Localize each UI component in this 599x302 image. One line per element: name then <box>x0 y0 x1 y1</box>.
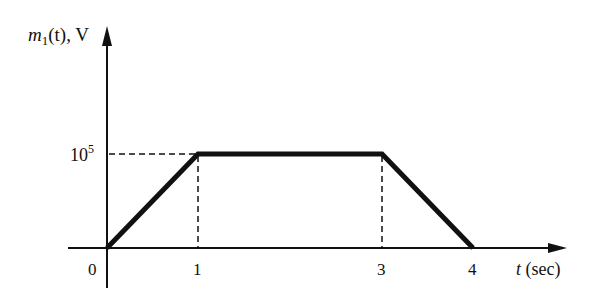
chart-canvas: m1(t), V 105 0 1 3 4 t (sec) <box>0 0 599 302</box>
x-tick-1: 1 <box>193 260 202 279</box>
signal-trapezoid <box>107 154 473 248</box>
y-axis-arrow-icon <box>102 26 112 46</box>
x-tick-0: 0 <box>88 260 97 279</box>
x-tick-3: 3 <box>377 260 386 279</box>
x-axis-label: t (sec) <box>516 259 561 280</box>
y-tick-label: 105 <box>70 142 94 165</box>
y-axis-label: m1(t), V <box>28 24 89 48</box>
x-axis-arrow-icon <box>548 243 567 253</box>
x-tick-4: 4 <box>468 260 477 279</box>
